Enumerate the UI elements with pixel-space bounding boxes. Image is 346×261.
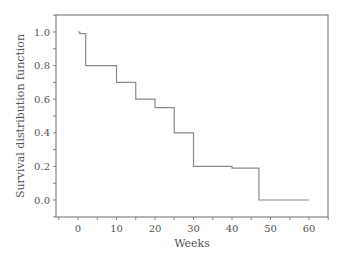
plot-frame [56,15,328,217]
x-tick-label: 0 [75,223,81,234]
x-tick-label: 40 [226,223,239,234]
y-axis: 0.00.20.40.60.81.0 [34,15,56,217]
x-tick-label: 10 [110,223,123,234]
survival-chart: 0.00.20.40.60.81.0 0102030405060 Weeks S… [0,0,346,261]
x-tick-label: 60 [303,223,316,234]
x-tick-label: 50 [264,223,277,234]
y-tick-label: 0.4 [34,127,50,138]
x-tick-label: 20 [149,223,162,234]
y-tick-label: 0.8 [34,60,50,71]
x-tick-label: 30 [187,223,200,234]
survival-step-line [78,32,309,200]
y-tick-label: 1.0 [34,27,50,38]
x-axis: 0102030405060 [59,217,329,234]
y-tick-label: 0.0 [34,195,50,206]
y-axis-title: Survival distribution function [14,34,27,198]
y-tick-label: 0.6 [34,94,50,105]
y-tick-label: 0.2 [34,161,50,172]
x-axis-title: Weeks [174,237,210,250]
